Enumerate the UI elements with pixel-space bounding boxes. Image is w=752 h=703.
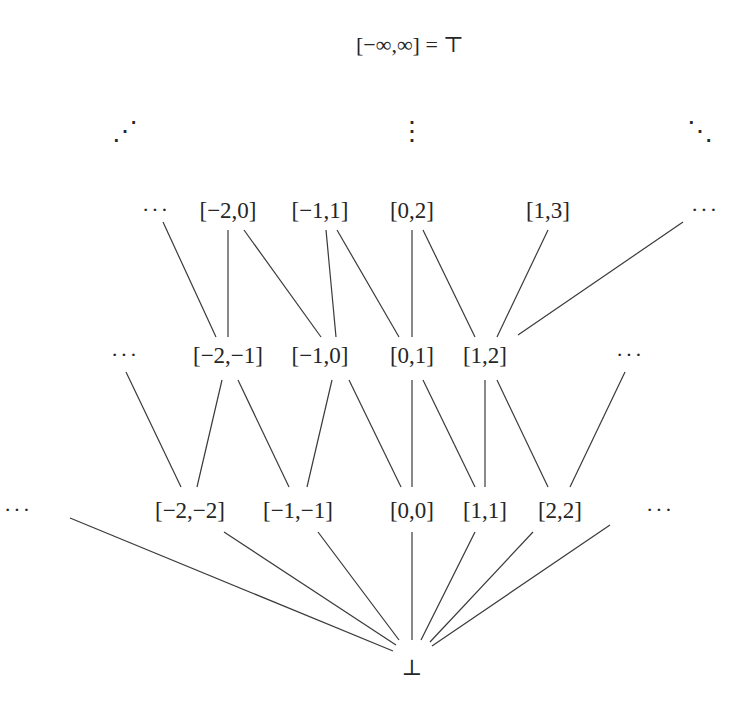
- row1-more-right: ···: [646, 499, 674, 521]
- bottom-element: ⊥: [402, 657, 423, 679]
- lattice-edge: [238, 380, 289, 487]
- node-interval-0-1: [0,1]: [390, 344, 434, 367]
- lattice-edge: [318, 532, 399, 640]
- lattice-edge: [70, 518, 393, 651]
- lattice-edge: [224, 532, 396, 645]
- lattice-edge: [337, 230, 399, 337]
- row2-more-left: ···: [111, 344, 139, 366]
- node-interval-m2-0: [−2,0]: [199, 199, 256, 222]
- continuation-up-center: ⋮: [399, 119, 425, 145]
- node-interval-m2-m2: [−2,−2]: [155, 499, 225, 522]
- lattice-edge: [326, 230, 336, 337]
- node-interval-1-1: [1,1]: [463, 499, 507, 522]
- node-interval-1-3: [1,3]: [526, 199, 570, 222]
- lattice-edge: [307, 380, 332, 487]
- top-element: [−∞,∞] = ⊤: [356, 34, 464, 56]
- lattice-edge: [570, 372, 625, 487]
- lattice-edge: [423, 230, 475, 337]
- lattice-edge: [423, 380, 475, 487]
- lattice-edge: [126, 372, 181, 487]
- node-interval-m2-m1: [−2,−1]: [193, 344, 263, 367]
- row1-more-left: ···: [4, 499, 32, 521]
- lattice-edge: [244, 230, 321, 337]
- lattice-edge: [430, 532, 533, 642]
- node-interval-m1-m1: [−1,−1]: [263, 499, 333, 522]
- lattice-edge: [163, 222, 216, 337]
- continuation-up-right: ⋱: [687, 119, 713, 145]
- row2-more-right: ···: [616, 344, 644, 366]
- row3-more-left: ···: [142, 199, 170, 221]
- lattice-edge: [518, 222, 683, 335]
- lattice-edge: [497, 380, 548, 487]
- node-interval-m1-0: [−1,0]: [291, 344, 348, 367]
- node-interval-1-2: [1,2]: [463, 344, 507, 367]
- lattice-edge: [497, 230, 548, 337]
- lattice-edge: [432, 525, 610, 646]
- node-interval-m1-1: [−1,1]: [291, 199, 348, 222]
- node-interval-0-2: [0,2]: [390, 199, 434, 222]
- continuation-up-left: ⋰: [112, 119, 138, 145]
- lattice-edge: [421, 532, 475, 640]
- row3-more-right: ···: [691, 199, 719, 221]
- node-interval-0-0: [0,0]: [390, 499, 434, 522]
- node-interval-2-2: [2,2]: [538, 499, 582, 522]
- lattice-edge: [349, 380, 401, 487]
- lattice-edge: [197, 380, 222, 487]
